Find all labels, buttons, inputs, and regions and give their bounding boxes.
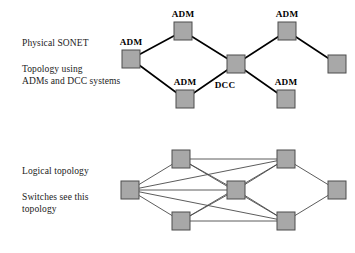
node-label-p-top-right: ADM [276,9,299,19]
logical-node[interactable] [277,150,295,168]
physical-node[interactable] [328,55,346,73]
topology-canvas: ADMADMADMDCCADMADM [0,0,355,253]
physical-node[interactable] [278,22,296,40]
physical-node[interactable] [176,90,194,108]
logical-node[interactable] [172,150,190,168]
physical-node[interactable] [277,90,295,108]
node-label-p-center: DCC [215,80,236,90]
logical-node[interactable] [277,212,295,230]
logical-node[interactable] [172,212,190,230]
physical-label-group: ADMADMADMDCCADMADM [120,9,299,90]
logical-node[interactable] [328,181,346,199]
physical-node-group [122,22,346,108]
logical-node[interactable] [227,181,245,199]
physical-node[interactable] [122,50,140,68]
logical-node[interactable] [121,181,139,199]
node-label-p-bottom-right: ADM [275,77,298,87]
node-label-p-top-left: ADM [172,9,195,19]
node-label-p-bottom-left: ADM [174,77,197,87]
physical-node[interactable] [227,55,245,73]
node-label-p-left: ADM [120,37,143,47]
diagram-page: Physical SONET Topology using ADMs and D… [0,0,355,253]
physical-node[interactable] [174,22,192,40]
